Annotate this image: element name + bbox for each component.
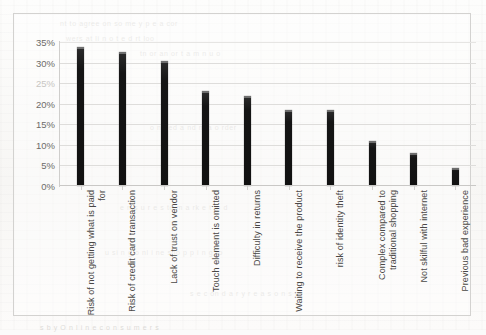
gridline (60, 42, 476, 43)
x-tick (164, 186, 165, 190)
x-axis-label: Complex compared to traditional shopping (377, 190, 398, 322)
x-tick (414, 186, 415, 190)
x-tick (330, 186, 331, 190)
x-axis-label: Risk of credit card transaction (127, 190, 138, 322)
y-axis-tick-labels: 0%5%10%15%20%25%30%35% (14, 42, 55, 186)
y-tick-label-5: 5% (15, 160, 55, 171)
x-tick (289, 186, 290, 190)
x-axis-label: Risk of not getting what is paid for (86, 190, 107, 322)
x-axis-category-labels: Risk of not getting what is paid forRisk… (60, 190, 476, 330)
bar (327, 110, 334, 186)
x-axis-label: Difficulty in returns (252, 190, 263, 322)
x-tick (206, 186, 207, 190)
x-tick (81, 186, 82, 190)
x-tick (247, 186, 248, 190)
x-tick (372, 186, 373, 190)
plot-area (60, 42, 476, 186)
bar (369, 141, 376, 186)
bar (285, 110, 292, 186)
bar (452, 168, 459, 187)
x-tick (122, 186, 123, 190)
chart-container: 0%5%10%15%20%25%30%35% Risk of not getti… (13, 13, 471, 316)
x-axis-label: Waiting to receive the product (294, 190, 305, 322)
y-tick-label-10: 10% (15, 139, 55, 150)
y-tick-label-15: 15% (15, 119, 55, 130)
bar (77, 47, 84, 186)
bar (161, 61, 168, 186)
y-tick-label-20: 20% (15, 98, 55, 109)
x-tick (455, 186, 456, 190)
y-tick-label-0: 0% (15, 181, 55, 192)
y-tick-label-35: 35% (15, 37, 55, 48)
x-axis-label: Previous bad experience (460, 190, 471, 322)
bar (119, 52, 126, 186)
bar (202, 91, 209, 186)
x-axis-label: Lack of trust on vendor (169, 190, 180, 322)
x-axis-label: risk of identity theft (335, 190, 346, 322)
y-tick-label-30: 30% (15, 57, 55, 68)
bar (410, 153, 417, 186)
bar (244, 96, 251, 187)
x-axis-label: Not skilful with internet (419, 190, 430, 322)
x-axis-label: Touch element is omitted (211, 190, 222, 322)
y-tick-label-25: 25% (15, 78, 55, 89)
